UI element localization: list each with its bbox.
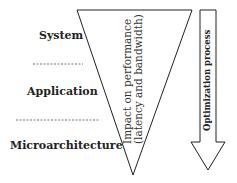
arrow-label: Optimization process [202, 30, 212, 131]
level-system: System [39, 29, 83, 42]
triangle-label-line2: (latency and bandwidth) [133, 14, 144, 144]
triangle-label: Impact on performance (latency and bandw… [122, 14, 144, 144]
level-microarchitecture: Microarchitecture [10, 139, 123, 152]
level-application: Application [27, 85, 98, 98]
